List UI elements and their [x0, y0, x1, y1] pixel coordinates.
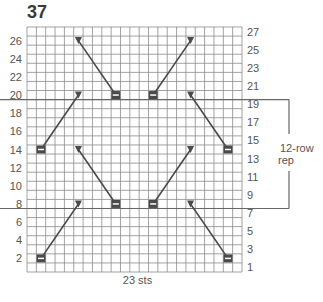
row-label: 27	[247, 26, 259, 38]
row-label: 7	[247, 207, 253, 219]
repeat-label: rep	[278, 154, 294, 166]
row-label: 22	[10, 71, 22, 83]
cable-line	[191, 204, 228, 258]
cable-line	[153, 150, 190, 204]
cable-line	[153, 41, 190, 95]
row-label: 5	[247, 225, 253, 237]
stitch-count: 23 sts	[123, 274, 153, 286]
row-label: 6	[16, 216, 22, 228]
row-label: 11	[247, 171, 258, 183]
cable-line	[41, 204, 78, 258]
row-label: 24	[10, 53, 22, 65]
row-label: 9	[247, 189, 253, 201]
row-label: 4	[16, 234, 22, 246]
row-label: 21	[247, 80, 259, 92]
repeat-label: 12-row	[280, 142, 314, 154]
row-label: 18	[10, 107, 22, 119]
knitting-chart: 12-rowrep2624222018161412108642272523211…	[0, 0, 323, 302]
row-label: 16	[10, 125, 22, 137]
row-label: 12	[10, 162, 22, 174]
row-label: 3	[247, 243, 253, 255]
row-label: 26	[10, 35, 22, 47]
cable-line	[78, 150, 115, 204]
row-label: 8	[16, 198, 22, 210]
row-label: 13	[247, 153, 259, 165]
row-label: 14	[10, 144, 22, 156]
row-label: 17	[247, 116, 259, 128]
row-label: 2	[16, 252, 22, 264]
row-label: 10	[10, 180, 22, 192]
row-label: 1	[247, 261, 253, 273]
cable-line	[191, 95, 228, 149]
cable-line	[41, 95, 78, 149]
row-label: 19	[247, 98, 259, 110]
row-label: 20	[10, 89, 22, 101]
cable-line	[78, 41, 115, 95]
row-label: 15	[247, 134, 259, 146]
row-label: 23	[247, 62, 259, 74]
row-label: 25	[247, 44, 259, 56]
